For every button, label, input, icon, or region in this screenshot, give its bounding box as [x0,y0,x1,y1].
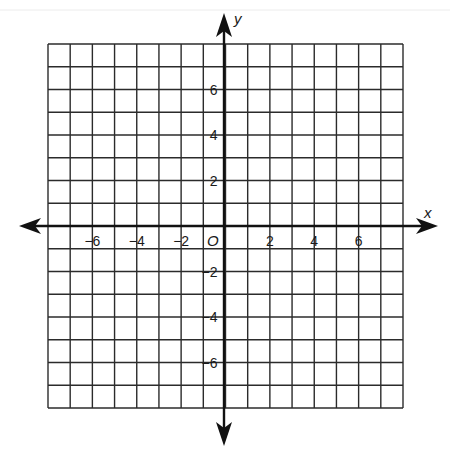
origin-label: O [207,232,219,249]
x-tick-label: −2 [173,233,189,249]
x-axis-label: x [423,204,432,221]
y-axis-label: y [233,10,243,27]
y-tick-label: 6 [210,82,218,98]
y-tick-label: −6 [202,355,218,371]
x-axis [19,218,438,234]
x-tick-label: 4 [310,233,318,249]
y-tick-label: −2 [202,264,218,280]
y-axis [216,13,232,446]
x-tick-label: −4 [129,233,145,249]
y-tick-label: −4 [202,309,218,325]
x-tick-label: −6 [84,233,100,249]
y-tick-label: 4 [210,127,218,143]
coordinate-plane: x y O −6−4−2246 642−2−4−6 [0,0,450,454]
x-tick-label: 2 [266,233,274,249]
x-tick-label: 6 [355,233,363,249]
y-tick-label: 2 [210,173,218,189]
